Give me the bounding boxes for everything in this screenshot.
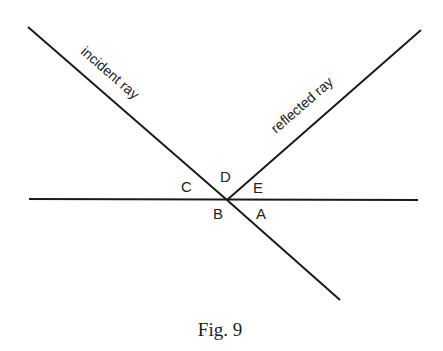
reflected-ray-label: reflected ray <box>267 74 336 137</box>
angle-label-b: B <box>213 205 223 222</box>
figure-caption: Fig. 9 <box>198 319 242 340</box>
angle-label-d: D <box>220 168 231 185</box>
surface-line <box>29 199 418 200</box>
incident-ray-extension-line <box>227 200 340 300</box>
incident-ray-label: incident ray <box>78 43 143 102</box>
angle-label-a: A <box>256 205 266 222</box>
reflected-ray-line <box>227 30 421 200</box>
angle-label-c: C <box>181 178 192 195</box>
incident-ray-line <box>28 27 227 200</box>
reflection-diagram: incident ray reflected ray C D E B A Fig… <box>0 0 443 351</box>
angle-label-e: E <box>253 179 263 196</box>
